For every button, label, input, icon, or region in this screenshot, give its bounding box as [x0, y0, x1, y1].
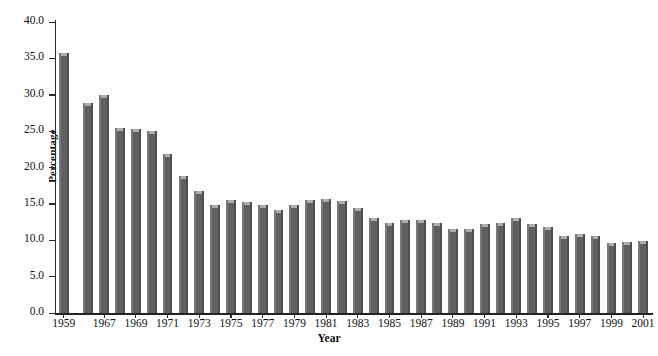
bar-highlight: [274, 210, 276, 313]
bar: [305, 200, 315, 313]
bar-shadow: [646, 241, 648, 313]
bar-shadow: [472, 229, 474, 313]
bar-shadow: [250, 202, 252, 313]
y-tick: [49, 313, 56, 314]
bar: [607, 243, 617, 313]
bar-shadow: [583, 234, 585, 313]
y-tick-label: 0.0: [2, 305, 44, 317]
bar-highlight: [416, 220, 418, 313]
bar-shadow: [345, 201, 347, 313]
bar-shadow: [170, 154, 172, 313]
bar-highlight: [131, 129, 133, 313]
bar: [321, 199, 331, 313]
bar: [99, 95, 109, 313]
bar-shadow: [218, 205, 220, 313]
bar-highlight: [337, 201, 339, 313]
bar-shadow: [91, 103, 93, 313]
y-tick: [49, 22, 56, 23]
y-tick-label: 10.0: [2, 232, 44, 244]
y-tick: [49, 167, 56, 168]
bar-highlight: [638, 241, 640, 313]
bar: [163, 154, 173, 313]
bar: [591, 236, 601, 313]
bar: [83, 103, 93, 313]
bar-highlight: [163, 154, 165, 313]
bar-highlight: [242, 202, 244, 313]
bar-shadow: [123, 128, 125, 314]
bar: [274, 210, 284, 313]
bar-highlight: [480, 224, 482, 313]
bar: [527, 224, 537, 313]
bar-highlight: [289, 205, 291, 313]
bar-shadow: [535, 224, 537, 313]
bar-shadow: [202, 191, 204, 313]
bar-highlight: [543, 227, 545, 313]
y-tick: [49, 240, 56, 241]
bar-highlight: [575, 234, 577, 313]
bar: [559, 236, 569, 313]
bar-shadow: [155, 131, 157, 313]
bar-shadow: [139, 129, 141, 313]
bar-shadow: [440, 223, 442, 313]
y-tick: [49, 203, 56, 204]
bar-highlight: [464, 229, 466, 313]
bar-highlight: [432, 223, 434, 313]
bar-highlight: [99, 95, 101, 313]
chart-figure: Percentage 0.05.010.015.020.025.030.035.…: [0, 0, 658, 356]
bar-highlight: [385, 223, 387, 313]
y-tick-label: 30.0: [2, 87, 44, 99]
bar: [59, 53, 69, 313]
y-tick-label: 25.0: [2, 123, 44, 135]
bar: [432, 223, 442, 313]
bar-shadow: [234, 200, 236, 313]
bar: [242, 202, 252, 313]
bar: [622, 242, 632, 313]
bar: [179, 176, 189, 313]
bar-highlight: [511, 218, 513, 313]
bar-shadow: [567, 236, 569, 313]
bar-highlight: [400, 220, 402, 313]
y-tick: [49, 94, 56, 95]
bar: [258, 205, 268, 313]
bar: [226, 200, 236, 313]
bar-highlight: [194, 191, 196, 313]
bar-shadow: [519, 218, 521, 313]
bar: [448, 229, 458, 313]
bar: [480, 224, 490, 313]
bar-highlight: [448, 229, 450, 313]
bar-shadow: [488, 224, 490, 313]
bar-highlight: [226, 200, 228, 313]
bar-highlight: [369, 218, 371, 313]
bar: [575, 234, 585, 313]
bar: [369, 218, 379, 313]
bar: [115, 128, 125, 314]
bar: [638, 241, 648, 313]
bar: [496, 223, 506, 313]
bar-shadow: [392, 223, 394, 313]
bar-highlight: [607, 243, 609, 313]
bar-shadow: [503, 223, 505, 313]
bar-shadow: [186, 176, 188, 313]
bar: [289, 205, 299, 313]
bar: [131, 129, 141, 313]
bar: [511, 218, 521, 313]
bar-highlight: [258, 205, 260, 313]
bar-highlight: [115, 128, 117, 314]
bar: [210, 205, 220, 313]
bar-shadow: [329, 199, 331, 313]
bar-shadow: [408, 220, 410, 313]
bar-shadow: [266, 205, 268, 313]
bar: [543, 227, 553, 313]
bar-highlight: [321, 199, 323, 313]
bar-highlight: [496, 223, 498, 313]
bar-shadow: [313, 200, 315, 313]
y-tick-label: 20.0: [2, 160, 44, 172]
bar-shadow: [377, 218, 379, 313]
bar-series: [56, 22, 652, 313]
x-tick-label: 2001: [623, 317, 658, 329]
bar-highlight: [179, 176, 181, 313]
bar-highlight: [559, 236, 561, 313]
bar-shadow: [424, 220, 426, 313]
bar-highlight: [353, 208, 355, 313]
x-axis-title: Year: [0, 332, 658, 344]
